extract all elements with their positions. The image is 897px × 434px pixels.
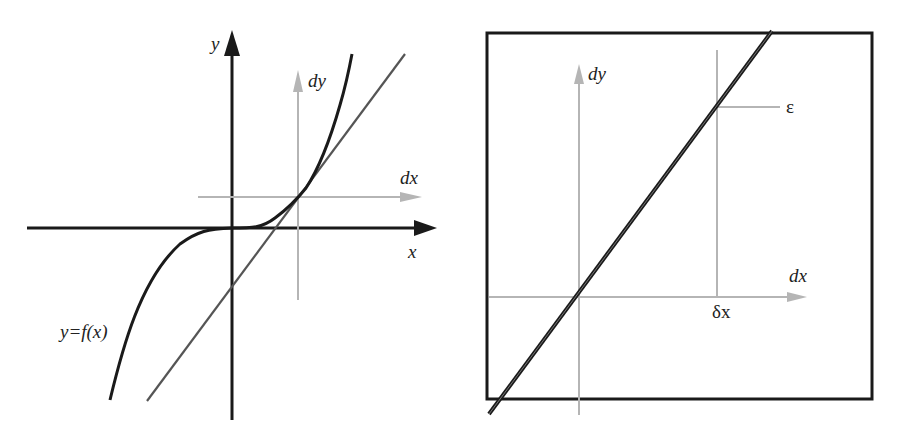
right-panel: dy ε dx δx: [487, 31, 872, 415]
local-dy-arrow-icon: [293, 70, 303, 92]
zoom-frame: [487, 33, 872, 399]
epsilon-label: ε: [786, 96, 794, 117]
x-axis-label: x: [407, 241, 417, 262]
dx-label-right: dx: [789, 265, 808, 286]
x-axis-arrow-icon: [414, 220, 437, 236]
y-axis-arrow-icon: [224, 30, 240, 56]
curve-label: y=f(x): [58, 321, 108, 343]
dy-label-right: dy: [588, 63, 607, 84]
y-axis-label: y: [209, 33, 220, 54]
local-dx-arrow-icon: [400, 192, 422, 202]
dy-label-left: dy: [308, 70, 327, 91]
delta-x-label: δx: [712, 301, 731, 322]
calculus-diagram: y dy dx x y=f(x) dy ε dx: [0, 0, 897, 434]
diagram-canvas: y dy dx x y=f(x) dy ε dx: [0, 0, 897, 434]
zoomed-curve-highlight: [489, 31, 772, 414]
zoom-dx-arrow-icon: [787, 292, 807, 302]
left-panel: y dy dx x y=f(x): [27, 30, 437, 420]
dx-label-left: dx: [400, 167, 419, 188]
zoom-dy-arrow-icon: [574, 64, 584, 84]
